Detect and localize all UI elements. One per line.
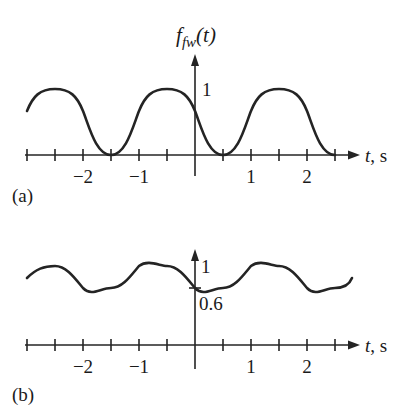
panel-a-label: (a) xyxy=(12,185,33,207)
panel-a-peak-value-label: 1 xyxy=(202,79,212,100)
panel-b-svg: 1 0.6 −2 −1 1 2 t, s (b) xyxy=(0,207,400,415)
panel-b-tick-label-neg2: −2 xyxy=(73,356,93,377)
panel-a-x-axis-arrowhead xyxy=(348,151,360,160)
panel-b-tick-label-neg1: −1 xyxy=(129,356,149,377)
panel-a-tick-label-neg2: −2 xyxy=(73,166,93,187)
panel-a-tick-label-neg1: −1 xyxy=(129,166,149,187)
panel-b-x-axis-arrowhead xyxy=(348,341,360,350)
panel-a-svg: ffw(t) xyxy=(0,0,400,208)
chart-panel-b: 1 0.6 −2 −1 1 2 t, s (b) xyxy=(0,207,400,415)
panel-b-x-axis-label: t, s xyxy=(365,335,387,356)
panel-a-function-label: ffw(t) xyxy=(176,23,216,50)
panel-b-tick-label-2: 2 xyxy=(302,356,312,377)
panel-b-y-axis-arrowhead xyxy=(191,249,199,261)
panel-a-tick-label-1: 1 xyxy=(246,166,256,187)
panel-a-x-axis-label: t, s xyxy=(365,145,387,166)
panel-a-tick-label-2: 2 xyxy=(302,166,312,187)
panel-a-waveform xyxy=(27,89,335,155)
chart-panel-a: ffw(t) xyxy=(0,0,400,208)
panel-b-peak-value-label: 1 xyxy=(201,256,211,277)
panel-b-min-value-label: 0.6 xyxy=(199,293,223,314)
panel-b-tick-label-1: 1 xyxy=(246,356,256,377)
panel-a-y-axis-arrowhead xyxy=(191,54,199,66)
panel-b-label: (b) xyxy=(12,384,34,406)
rectified-waveform-figure: ffw(t) xyxy=(0,0,400,415)
